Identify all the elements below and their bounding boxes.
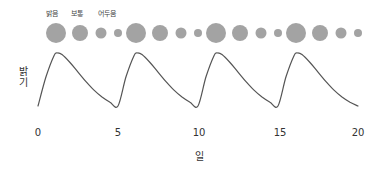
brightness-circle-large xyxy=(46,23,66,43)
x-tick-0: 0 xyxy=(35,127,41,138)
brightness-circle-smallest xyxy=(274,29,282,37)
x-tick-5: 5 xyxy=(115,127,121,138)
brightness-circle-smallest xyxy=(354,29,362,37)
x-tick-15: 15 xyxy=(274,127,287,138)
x-axis-label: 일 xyxy=(195,148,204,163)
x-tick-10: 10 xyxy=(193,127,206,138)
light-curve-chart: 밝음 보통 어두움 밝기 0 5 10 15 20 일 xyxy=(0,0,381,172)
plot-area xyxy=(0,0,381,172)
brightness-circle-medium xyxy=(72,25,88,41)
brightness-circle-medium xyxy=(312,25,328,41)
brightness-circle-medium xyxy=(152,25,168,41)
x-tick-20: 20 xyxy=(352,127,365,138)
brightness-circle-small xyxy=(336,28,347,39)
brightness-circle-large xyxy=(206,23,226,43)
brightness-circle-smallest xyxy=(114,29,122,37)
brightness-circle-large xyxy=(286,23,306,43)
brightness-circle-small xyxy=(256,28,267,39)
brightness-circle-medium xyxy=(232,25,248,41)
light-curve-line xyxy=(38,53,358,107)
brightness-circles xyxy=(46,23,362,43)
brightness-circle-large xyxy=(126,23,146,43)
brightness-circle-small xyxy=(96,28,107,39)
y-axis-label: 밝기 xyxy=(17,66,29,88)
brightness-circle-smallest xyxy=(194,29,202,37)
brightness-circle-small xyxy=(176,28,187,39)
